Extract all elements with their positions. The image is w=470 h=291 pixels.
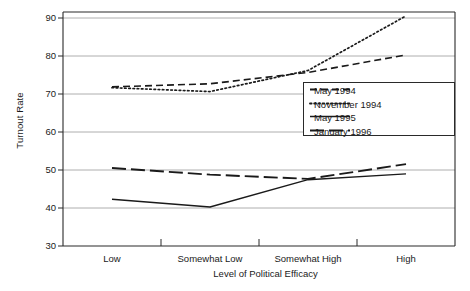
series-line-may-1995 <box>112 174 406 207</box>
x-tick-marks <box>161 239 357 246</box>
chart-container: Turnout Rate Level of Political Efficacy… <box>0 0 470 291</box>
plot-svg <box>0 0 470 291</box>
legend-item-may-1995[interactable]: May 1995 <box>309 111 454 125</box>
legend: May 1994November 1994May 1995January 199… <box>303 82 455 136</box>
legend-item-may-1994[interactable]: May 1994 <box>309 84 454 98</box>
legend-swatch-long-dash-icon <box>309 125 351 136</box>
legend-swatch-dashed-icon <box>309 84 351 95</box>
series-line-november-1994 <box>112 16 406 92</box>
legend-swatch-solid-icon <box>309 111 351 122</box>
y-tick-marks <box>58 18 63 246</box>
legend-item-november-1994[interactable]: November 1994 <box>309 98 454 112</box>
legend-item-january-1996[interactable]: January 1996 <box>309 125 454 139</box>
legend-swatch-dotted-icon <box>309 98 351 109</box>
